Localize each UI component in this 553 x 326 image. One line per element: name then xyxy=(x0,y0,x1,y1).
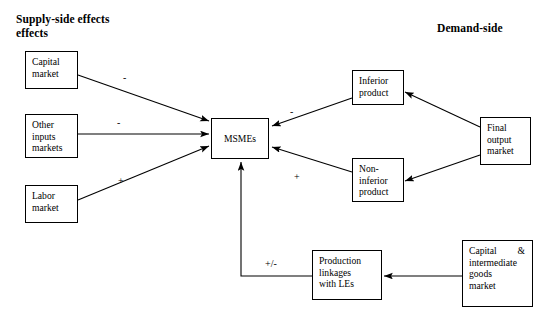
node-other-inputs-markets[interactable]: Other inputs markets xyxy=(25,114,78,158)
node-non-inferior-product-label: Non- inferior product xyxy=(359,163,398,198)
node-final-output-market[interactable]: Final output market xyxy=(480,117,531,165)
edge-inferior-product-to-msmes xyxy=(272,98,352,126)
node-capital-market[interactable]: Capital market xyxy=(25,51,78,89)
edge-final-output-to-inferior-product xyxy=(405,92,480,127)
edge-non-inferior-product-to-msmes xyxy=(272,147,352,172)
node-inferior-product-label: Inferior product xyxy=(359,75,398,98)
node-capital-intermediate-goods-market[interactable]: Capital & intermediate goods market xyxy=(462,240,533,307)
node-labor-market-label: Labor market xyxy=(32,190,72,213)
edge-label-inferior-to-msmes: - xyxy=(290,107,293,117)
node-final-output-market-label: Final output market xyxy=(487,122,525,157)
node-capital-intermediate-word-capital: Capital xyxy=(469,245,497,257)
node-inferior-product[interactable]: Inferior product xyxy=(352,70,404,105)
node-capital-intermediate-rest-label: intermediate goods market xyxy=(469,257,527,292)
edge-final-output-to-non-inferior-product xyxy=(405,155,480,181)
node-production-linkages-label: Production linkages with LEs xyxy=(319,255,376,290)
demand-side-heading: Demand-side xyxy=(437,21,503,35)
node-labor-market[interactable]: Labor market xyxy=(25,185,78,223)
node-capital-market-label: Capital market xyxy=(32,56,72,79)
node-capital-intermediate-first-line: Capital & xyxy=(469,245,525,257)
edge-capital-market-to-msmes xyxy=(78,75,209,121)
node-production-linkages[interactable]: Production linkages with LEs xyxy=(312,250,382,300)
edge-label-production-linkages-to-msmes: +/- xyxy=(265,259,277,269)
edge-label-capital-to-msmes: - xyxy=(123,73,126,83)
edge-labor-market-to-msmes xyxy=(78,146,209,200)
node-non-inferior-product[interactable]: Non- inferior product xyxy=(352,158,404,202)
node-msmes-label: MSMEs xyxy=(224,133,256,145)
diagram-canvas: Supply-side effects effects Demand-side … xyxy=(0,0,553,326)
node-capital-intermediate-word-ampersand: & xyxy=(518,245,525,257)
edge-label-labor-to-msmes: + xyxy=(118,176,124,186)
supply-side-heading: Supply-side effects effects xyxy=(16,12,110,40)
edge-label-other-inputs-to-msmes: - xyxy=(117,118,120,128)
edge-label-non-inferior-to-msmes: + xyxy=(294,172,300,182)
node-msmes[interactable]: MSMEs xyxy=(211,118,269,159)
node-other-inputs-markets-label: Other inputs markets xyxy=(32,119,72,154)
